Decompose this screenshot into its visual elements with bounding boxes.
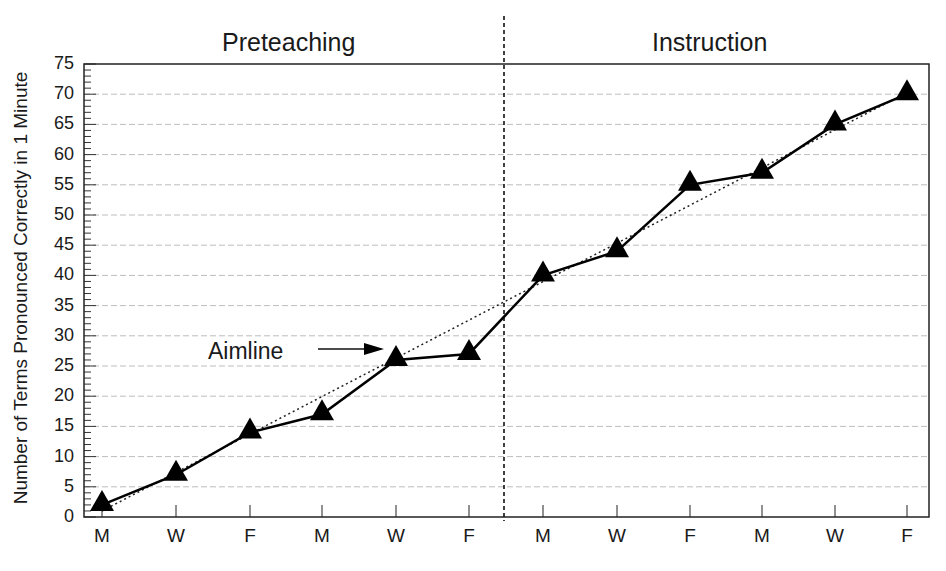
aimline-arrow-head-icon [364,343,384,355]
y-tick-label: 50 [38,204,74,225]
y-tick-label: 45 [38,234,74,255]
x-tick-label: M [307,525,337,547]
plot-frame [84,64,929,517]
y-axis-label-text: Number of Terms Pronounced Correctly in … [10,72,32,505]
phase-label-preteaching: Preteaching [222,28,355,57]
y-tick-label: 35 [38,295,74,316]
x-tick-label: M [87,525,117,547]
x-tick-label: F [454,525,484,547]
x-tick-label: W [381,525,411,547]
x-tick-label: W [602,525,632,547]
triangle-marker [238,417,262,438]
y-tick-label: 75 [38,53,74,74]
triangle-marker [384,345,408,366]
y-tick-label: 20 [38,385,74,406]
y-tick-label: 40 [38,264,74,285]
triangle-marker [457,339,481,360]
triangle-marker [895,79,919,100]
y-tick-label: 15 [38,415,74,436]
x-tick-label: W [161,525,191,547]
y-tick-label: 55 [38,174,74,195]
triangle-marker [678,170,702,191]
x-tick-label: F [675,525,705,547]
y-tick-label: 5 [38,476,74,497]
y-tick-label: 10 [38,446,74,467]
x-tick-label: F [892,525,922,547]
aimline-annotation: Aimline [208,338,283,365]
x-tick-label: W [820,525,850,547]
y-tick-label: 65 [38,113,74,134]
x-tick-label: F [235,525,265,547]
y-tick-label: 60 [38,144,74,165]
plot-area [0,0,946,571]
x-tick-label: M [528,525,558,547]
x-tick-label: M [747,525,777,547]
y-tick-label: 30 [38,325,74,346]
phase-label-instruction: Instruction [652,28,767,57]
y-axis-label: Number of Terms Pronounced Correctly in … [6,28,36,548]
y-tick-label: 25 [38,355,74,376]
triangle-marker [310,399,334,420]
chart-container: Preteaching Instruction Number of Terms … [0,0,946,571]
y-tick-label: 70 [38,83,74,104]
y-tick-label: 0 [38,506,74,527]
triangle-marker [531,260,555,281]
